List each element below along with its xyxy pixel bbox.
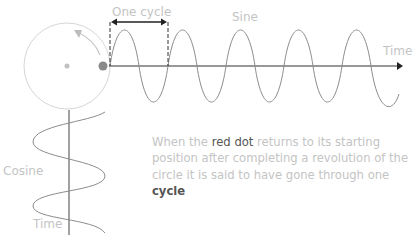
diagram-canvas [0, 0, 419, 235]
time-horizontal-label: Time [383, 44, 412, 58]
time-vertical-label: Time [33, 217, 62, 231]
span-arrow-right-icon [161, 19, 167, 26]
red-dot [99, 62, 108, 71]
cosine-label: Cosine [3, 164, 43, 178]
span-arrow-left-icon [111, 19, 117, 26]
one-cycle-label: One cycle [112, 5, 171, 19]
caption-cycle-highlight: cycle [152, 184, 185, 198]
caption-text-1: When the [152, 135, 212, 149]
time-axis-arrow-icon [397, 62, 403, 70]
circle-center-dot [65, 64, 70, 69]
caption-red-dot-highlight: red dot [212, 135, 254, 149]
rotation-arc-icon [79, 33, 100, 55]
sine-wave [110, 30, 399, 107]
sine-label: Sine [232, 10, 258, 24]
explanation-caption: When the red dot returns to its starting… [152, 134, 419, 200]
